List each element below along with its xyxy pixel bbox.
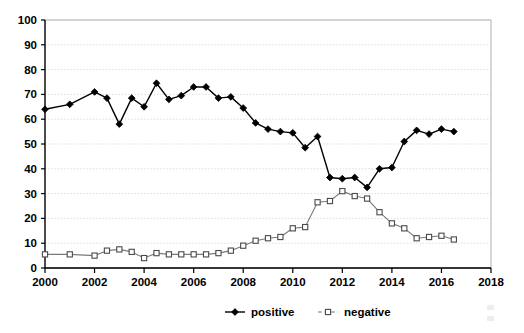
y-tick-label-70: 70 (24, 88, 37, 100)
data-point-negative-2012.5 (352, 193, 357, 198)
y-tick-label-20: 20 (24, 212, 37, 224)
y-tick-label-10: 10 (24, 237, 37, 249)
data-point-negative-2011.5 (327, 198, 332, 203)
data-point-negative-2011 (315, 200, 320, 205)
data-point-negative-2010.5 (303, 224, 308, 229)
data-point-negative-2010 (290, 226, 295, 231)
x-axis: 2000200220042006200820102012201420162018 (32, 268, 504, 288)
data-point-negative-2012 (340, 189, 345, 194)
y-tick-label-50: 50 (24, 138, 37, 150)
data-point-negative-2001 (67, 252, 72, 257)
x-tick-label-2016: 2016 (429, 276, 455, 288)
data-point-negative-2005.5 (179, 252, 184, 257)
x-tick-label-2004: 2004 (131, 276, 157, 288)
y-tick-label-100: 100 (18, 14, 37, 26)
x-tick-label-2014: 2014 (379, 276, 405, 288)
data-point-negative-2007.5 (228, 248, 233, 253)
data-point-negative-2003 (117, 247, 122, 252)
data-point-negative-2002.5 (104, 248, 109, 253)
data-point-negative-2004 (142, 255, 147, 260)
legend-marker-positive (232, 309, 239, 316)
data-point-negative-2015.5 (426, 234, 431, 239)
y-tick-label-60: 60 (24, 113, 37, 125)
legend-label-positive: positive (251, 306, 294, 318)
data-point-negative-2002 (92, 253, 97, 258)
data-point-negative-2009.5 (278, 234, 283, 239)
x-tick-label-2012: 2012 (330, 276, 356, 288)
data-point-negative-2009 (265, 236, 270, 241)
legend-label-negative: negative (344, 306, 391, 318)
x-tick-label-2002: 2002 (82, 276, 108, 288)
data-point-negative-2013.5 (377, 210, 382, 215)
x-tick-label-2008: 2008 (230, 276, 256, 288)
y-tick-label-80: 80 (24, 64, 37, 76)
legend-item-negative[interactable]: negative (318, 306, 391, 318)
x-tick-label-2010: 2010 (280, 276, 306, 288)
data-point-negative-2008.5 (253, 238, 258, 243)
data-point-negative-2016 (439, 233, 444, 238)
data-point-negative-2005 (166, 252, 171, 257)
data-point-negative-2000 (42, 252, 47, 257)
data-point-negative-2006 (191, 252, 196, 257)
chart-legend: positivenegative (225, 306, 391, 318)
data-point-negative-2007 (216, 251, 221, 256)
y-tick-label-0: 0 (31, 262, 37, 274)
x-tick-label-2006: 2006 (181, 276, 207, 288)
data-point-negative-2013 (365, 196, 370, 201)
data-point-negative-2003.5 (129, 249, 134, 254)
data-point-negative-2006.5 (203, 252, 208, 257)
data-point-negative-2014.5 (402, 226, 407, 231)
chart-container: 0102030405060708090100 20002002200420062… (0, 0, 524, 333)
line-chart: 0102030405060708090100 20002002200420062… (0, 0, 524, 333)
x-tick-label-2000: 2000 (32, 276, 58, 288)
y-tick-label-90: 90 (24, 39, 37, 51)
scan-artifacts (487, 305, 494, 321)
data-point-negative-2014 (389, 221, 394, 226)
data-point-negative-2004.5 (154, 251, 159, 256)
data-point-negative-2015 (414, 236, 419, 241)
y-tick-label-40: 40 (24, 163, 37, 175)
legend-marker-negative (325, 309, 330, 314)
data-point-negative-2016.5 (451, 237, 456, 242)
legend-item-positive[interactable]: positive (225, 306, 294, 318)
x-tick-label-2018: 2018 (478, 276, 504, 288)
y-tick-label-30: 30 (24, 188, 37, 200)
data-point-negative-2008 (241, 243, 246, 248)
y-axis: 0102030405060708090100 (18, 14, 45, 274)
